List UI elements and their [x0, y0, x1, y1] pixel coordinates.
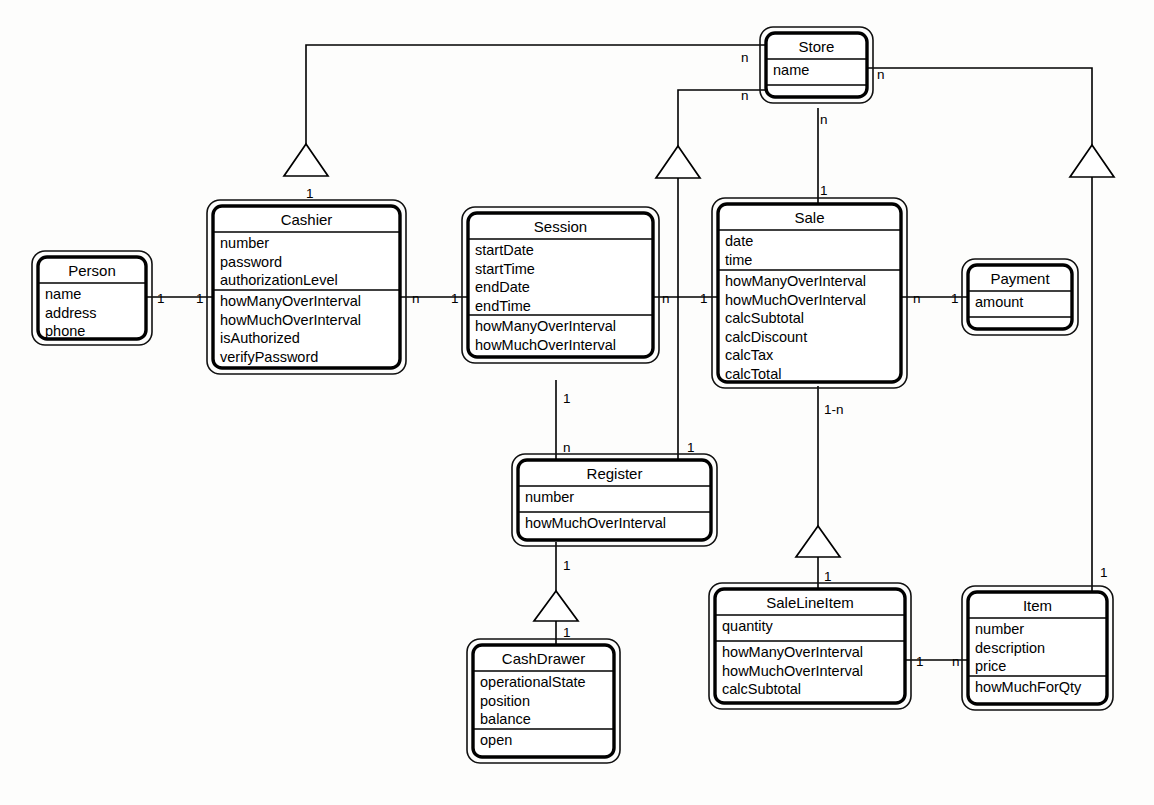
triangle-register — [656, 146, 700, 178]
multiplicity-m-session-right: n — [662, 291, 670, 306]
class-attribute: time — [725, 252, 752, 268]
multiplicity-m-sale-top: 1 — [820, 183, 828, 198]
multiplicity-m-cashier-left: 1 — [196, 291, 204, 306]
class-attribute: date — [725, 233, 753, 249]
class-name-cashdrawer: CashDrawer — [502, 650, 585, 667]
class-operation: howManyOverInterval — [220, 293, 361, 309]
class-name-register: Register — [587, 465, 643, 482]
class-name-store: Store — [799, 38, 835, 55]
class-name-sale: Sale — [794, 209, 824, 226]
link-store-cashier — [306, 45, 766, 144]
class-attribute: endDate — [475, 279, 530, 295]
class-box-layer: PersonnameaddressphoneCashiernumberpassw… — [32, 27, 1113, 763]
class-operation: howManyOverInterval — [475, 318, 616, 334]
triangle-layer — [284, 144, 1114, 621]
triangle-cashdrawer — [534, 591, 578, 621]
multiplicity-m-register-top-right: 1 — [687, 440, 695, 455]
class-box-register[interactable]: RegisternumberhowMuchOverInterval — [512, 454, 717, 546]
class-operation: calcTotal — [725, 366, 781, 382]
class-operation: howManyOverInterval — [725, 273, 866, 289]
class-name-person: Person — [68, 262, 116, 279]
class-operation: verifyPassword — [220, 349, 318, 365]
class-attribute: endTime — [475, 298, 531, 314]
multiplicity-m-store-left-lower: n — [741, 88, 749, 103]
multiplicity-m-payment-left: 1 — [951, 291, 959, 306]
triangle-cashier — [284, 144, 328, 176]
class-attribute: balance — [480, 711, 531, 727]
multiplicity-m-person-right: 1 — [157, 291, 165, 306]
class-box-session[interactable]: SessionstartDatestartTimeendDateendTimeh… — [462, 207, 659, 363]
multiplicity-m-sale-left: 1 — [700, 291, 708, 306]
class-attribute: phone — [45, 323, 85, 339]
class-name-salelineitem: SaleLineItem — [766, 594, 854, 611]
class-attribute: authorizationLevel — [220, 272, 338, 288]
class-operation: howMuchForQty — [975, 679, 1082, 695]
class-operation: calcSubtotal — [725, 310, 804, 326]
class-attribute: amount — [975, 294, 1023, 310]
multiplicity-m-session-left: 1 — [451, 291, 459, 306]
class-box-payment[interactable]: Paymentamount — [962, 259, 1078, 335]
class-attribute: position — [480, 693, 530, 709]
class-box-sale[interactable]: SaledatetimehowManyOverIntervalhowMuchOv… — [712, 198, 907, 388]
multiplicity-m-cashdrawer-top: 1 — [563, 625, 571, 640]
class-attribute: quantity — [722, 618, 774, 634]
multiplicity-m-salelineitem-top: 1 — [824, 569, 832, 584]
class-box-cashier[interactable]: CashiernumberpasswordauthorizationLevelh… — [207, 200, 406, 374]
multiplicity-m-sale-right: n — [913, 291, 921, 306]
class-attribute: number — [525, 489, 574, 505]
class-attribute: description — [975, 640, 1045, 656]
class-operation: calcSubtotal — [722, 681, 801, 697]
class-box-cashdrawer[interactable]: CashDraweroperationalStatepositionbalanc… — [467, 639, 620, 763]
class-box-store[interactable]: Storename — [760, 27, 873, 103]
multiplicity-m-item-top: 1 — [1100, 565, 1108, 580]
class-box-item[interactable]: ItemnumberdescriptionpricehowMuchForQty — [962, 586, 1113, 710]
multiplicity-m-item-left: n — [952, 654, 960, 669]
multiplicity-m-cashier-top: 1 — [306, 186, 314, 201]
class-attribute: number — [220, 235, 269, 251]
class-operation: howMuchOverInterval — [525, 515, 666, 531]
class-operation: howMuchOverInterval — [725, 292, 866, 308]
class-operation: howMuchOverInterval — [220, 312, 361, 328]
multiplicity-m-register-top-left: n — [563, 440, 571, 455]
multiplicity-m-session-bottom: 1 — [563, 391, 571, 406]
class-name-payment: Payment — [990, 270, 1050, 287]
multiplicity-m-store-left-upper: n — [741, 50, 749, 65]
triangle-salelineitem — [796, 526, 840, 557]
class-attribute: price — [975, 658, 1006, 674]
class-attribute: password — [220, 254, 282, 270]
class-operation: calcDiscount — [725, 329, 807, 345]
class-attribute: startDate — [475, 242, 534, 258]
triangle-item — [1070, 145, 1114, 177]
multiplicity-m-register-bottom: 1 — [563, 558, 571, 573]
class-box-person[interactable]: Personnameaddressphone — [32, 251, 152, 345]
diagram-canvas: PersonnameaddressphoneCashiernumberpassw… — [0, 0, 1154, 805]
multiplicity-m-cashier-right: n — [412, 291, 420, 306]
multiplicity-m-store-bottom: n — [820, 112, 828, 127]
class-attribute: operationalState — [480, 674, 586, 690]
class-operation: howMuchOverInterval — [475, 337, 616, 353]
multiplicity-m-store-right: n — [877, 67, 885, 82]
multiplicity-m-sale-bottom: 1-n — [824, 402, 844, 417]
multiplicity-m-salelineitem-right: 1 — [916, 654, 924, 669]
class-operation: isAuthorized — [220, 330, 300, 346]
class-operation: calcTax — [725, 347, 774, 363]
uml-class-diagram: PersonnameaddressphoneCashiernumberpassw… — [0, 0, 1154, 805]
class-attribute: address — [45, 305, 97, 321]
class-name-cashier: Cashier — [281, 211, 333, 228]
class-operation: open — [480, 732, 512, 748]
class-attribute: name — [45, 286, 81, 302]
class-attribute: startTime — [475, 261, 535, 277]
class-attribute: name — [773, 62, 809, 78]
class-operation: howMuchOverInterval — [722, 663, 863, 679]
class-name-item: Item — [1023, 597, 1052, 614]
class-box-salelineitem[interactable]: SaleLineItemquantityhowManyOverIntervalh… — [709, 583, 911, 709]
class-attribute: number — [975, 621, 1024, 637]
class-name-session: Session — [534, 218, 587, 235]
class-operation: howManyOverInterval — [722, 644, 863, 660]
